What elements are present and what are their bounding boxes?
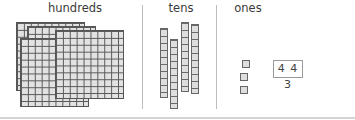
ten-rod: [191, 24, 199, 94]
ones-heading: ones: [228, 1, 268, 15]
tens-heading: tens: [160, 1, 202, 15]
bottom-border: [0, 117, 355, 119]
ten-rod: [170, 39, 178, 109]
ten-rod: [181, 22, 189, 92]
divider-hundreds-tens: [142, 5, 143, 109]
hundreds-heading: hundreds: [45, 1, 105, 15]
ten-rod: [160, 28, 168, 98]
one-cube: [240, 73, 248, 81]
answer-box: 4 4 3: [273, 60, 303, 78]
one-cube: [240, 86, 248, 94]
hundred-flat: [55, 30, 124, 99]
one-cube: [242, 60, 250, 68]
divider-tens-ones: [216, 5, 217, 109]
